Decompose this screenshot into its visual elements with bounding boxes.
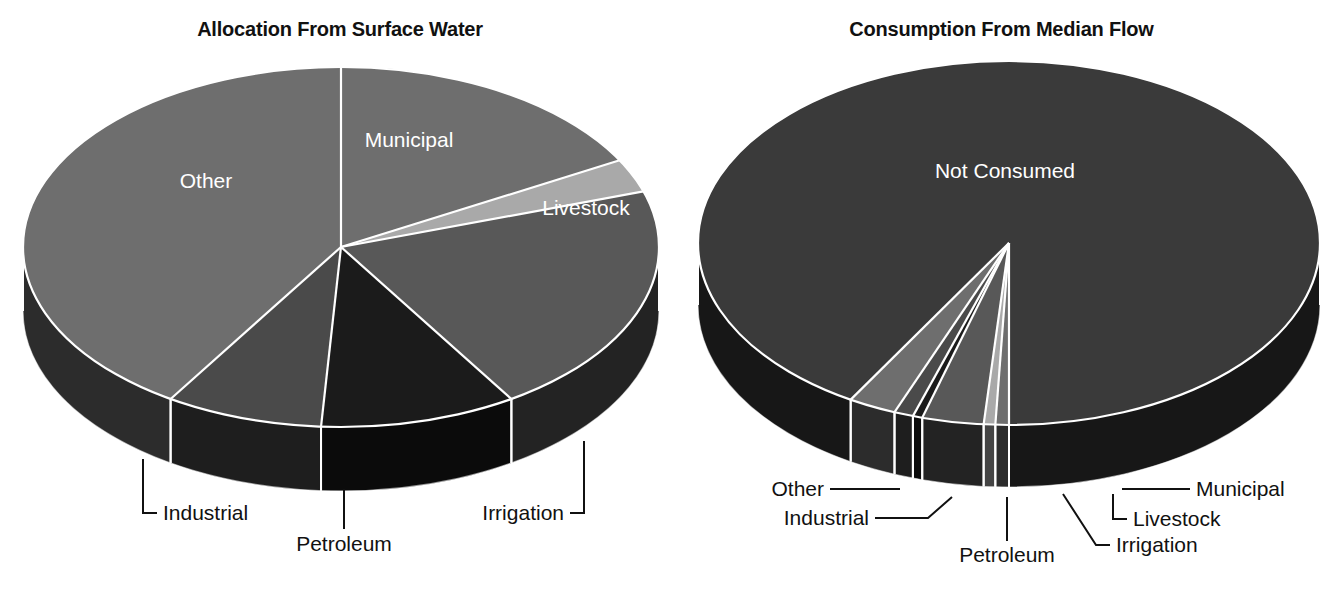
slice-label-municipal-left: Municipal [365, 128, 454, 151]
slice-label-other-left: Other [180, 169, 233, 192]
callout-label-livestock-right: Livestock [1133, 507, 1221, 530]
callout-label-industrial-right: Industrial [784, 506, 869, 529]
pie-charts-svg: Municipal Livestock Other Industrial Pet… [0, 0, 1343, 596]
callout-line-livestock-right [1113, 494, 1127, 519]
figure-canvas: Allocation From Surface Water Consumptio… [0, 0, 1343, 596]
callout-line-industrial-right [875, 497, 952, 518]
callout-label-other-right: Other [771, 477, 824, 500]
callout-label-municipal-right: Municipal [1196, 477, 1285, 500]
callout-line-irrigation-left [570, 441, 584, 513]
pie-chart-consumption: Not Consumed Other Industrial Petroleum … [698, 61, 1320, 566]
callout-label-irrigation-left: Irrigation [482, 501, 564, 524]
slice-label-not-consumed: Not Consumed [935, 159, 1075, 182]
pie-chart-allocation: Municipal Livestock Other Industrial Pet… [23, 67, 659, 555]
callout-line-industrial-left [143, 459, 157, 513]
callout-line-irrigation-right [1063, 494, 1110, 545]
callout-label-petroleum-left: Petroleum [296, 532, 392, 555]
callout-label-irrigation-right: Irrigation [1116, 533, 1198, 556]
slice-label-livestock-left: Livestock [542, 196, 630, 219]
callout-label-industrial-left: Industrial [163, 501, 248, 524]
callout-label-petroleum-right: Petroleum [959, 543, 1055, 566]
